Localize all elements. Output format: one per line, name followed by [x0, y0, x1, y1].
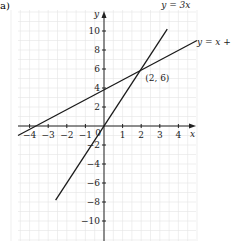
x-axis-label: x — [190, 129, 195, 139]
x-tick-label: −1 — [79, 130, 92, 140]
y-tick-label: 6 — [94, 64, 100, 74]
x-tick-label: −2 — [60, 130, 73, 140]
y-tick-label: 4 — [94, 83, 100, 93]
intersection-annotation: (2, 6) — [145, 73, 169, 83]
x-axis-arrow-icon — [189, 124, 196, 129]
series-label: y = 3x — [160, 0, 190, 10]
x-tick-label: 2 — [138, 130, 144, 140]
series-lines — [18, 29, 197, 200]
panel-label: a) — [0, 0, 10, 11]
y-tick-label: −2 — [87, 140, 100, 150]
labels: xy−4−3−2−11234−10−8−6−4−22468100y = 3xy … — [23, 0, 231, 226]
x-tick-label: 3 — [157, 130, 163, 140]
y-tick-label: −6 — [87, 178, 101, 188]
y-tick-label: 8 — [94, 45, 100, 55]
x-tick-label: −4 — [23, 130, 37, 140]
origin-label: 0 — [95, 128, 101, 138]
y-tick-label: 2 — [94, 102, 100, 112]
x-tick-label: 1 — [120, 130, 126, 140]
y-axis-label: y — [93, 9, 100, 19]
x-tick-label: 4 — [176, 130, 182, 140]
y-tick-label: 10 — [89, 26, 101, 36]
y-tick-label: −10 — [81, 216, 100, 226]
series-label: y = x + — [196, 37, 231, 47]
y-tick-label: −4 — [87, 159, 101, 169]
y-tick-label: −8 — [87, 197, 101, 207]
x-tick-label: −3 — [42, 130, 56, 140]
coordinate-plot: xy−4−3−2−11234−10−8−6−4−22468100y = 3xy … — [0, 0, 236, 241]
